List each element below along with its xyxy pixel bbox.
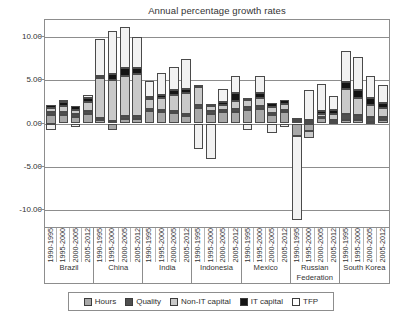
bar-segment-it-capital [71,106,81,109]
bar-segment-it-capital [267,103,277,107]
bar-segment-it-capital [292,118,302,120]
legend-label: Quality [136,297,161,306]
bar-segment-quality [108,121,118,124]
x-period-text: 2000-2005 [219,228,226,262]
bar-segment-it-capital [169,90,179,95]
bar-segment-tfp [46,124,56,130]
bar-segment-it-capital [157,95,167,98]
y-tick-label: -10.00 [2,204,42,213]
bar-segment-non-it-capital [194,87,204,105]
x-group-brazil: 1990-19951995-20002000-20052005-2012Braz… [45,228,94,284]
x-period-text: 2000-2005 [170,228,177,262]
bar-segment-hours [206,114,216,123]
x-period-label: 1995-2000 [303,228,315,262]
bar-segment-hours [231,112,241,124]
bar-segment-hours [120,119,130,124]
bar-segment-quality [194,105,204,108]
bar-segment-it-capital [194,85,204,87]
legend-swatch [240,298,248,306]
bar-segment-non-it-capital [243,100,253,107]
bar-segment-quality [231,109,241,112]
x-period-label: 1990-1995 [143,228,155,262]
x-axis: 1990-19951995-20002000-20052005-2012Braz… [44,228,390,284]
stacked-bar [169,20,179,229]
bar-segment-it-capital [317,111,327,114]
bar-segment-tfp [132,37,142,68]
bar-segment-hours [46,115,56,124]
x-period-label: 1990-1995 [340,228,352,262]
x-period-label: 1995-2000 [106,228,118,262]
stacked-bar [353,20,363,229]
x-period-label: 1990-1995 [45,228,57,262]
bar-segment-quality [329,120,339,122]
x-group-label: South Korea [340,263,389,273]
bar-segment-quality [83,111,93,114]
bar-segment-hours [341,120,351,123]
bar-segment-it-capital [181,89,191,93]
bar-segment-tfp [255,76,265,93]
bar-segment-quality [304,122,314,124]
bar-segment-quality [280,110,290,112]
bar-segment-tfp [280,124,290,128]
x-group-label: Brazil [45,263,93,273]
x-period-label: 2000-2005 [217,228,229,262]
stacked-bar [304,20,314,229]
x-period-label: 1990-1995 [242,228,254,262]
bar-segment-quality [378,117,388,121]
stacked-bar [329,20,339,229]
bar-segment-quality [132,116,142,119]
bar-segment-quality [145,109,155,111]
x-group-india: 1990-19951995-20002000-20052005-2012Indi… [143,228,192,284]
bar-segment-tfp [267,124,277,134]
bar-segment-it-capital [255,93,265,98]
bar-segment-it-capital [304,120,314,122]
bar-segment-hours [181,116,191,124]
x-group-indonesia: 1990-19951995-20002000-20052005-2012Indo… [192,228,241,284]
x-period-label: 1995-2000 [156,228,168,262]
bar-segment-hours [194,108,204,124]
bar-segment-it-capital [145,97,155,99]
bar-segment-quality [120,116,130,119]
bar-segment-quality [341,114,351,120]
x-period-label: 2000-2005 [119,228,131,262]
stacked-bar [231,20,241,229]
stacked-bar [292,20,302,229]
y-tick-label: 0.00 [2,118,42,127]
bar-segment-hours [378,120,388,123]
stacked-bar [157,20,167,229]
bar-segment-quality [255,106,265,109]
bar-segment-tfp [378,85,388,103]
x-period-text: 1995-2000 [158,228,165,262]
bar-segment-non-it-capital [317,114,327,117]
bar-segment-quality [243,107,253,110]
stacked-bar [341,20,351,229]
stacked-bar [317,20,327,229]
bar-segment-it-capital [329,110,339,113]
bar-segment-tfp [108,31,118,74]
bar-segment-it-capital [353,90,363,98]
stacked-bar [206,20,216,229]
bar-segment-quality [169,111,179,113]
bar-segment-non-it-capital [169,95,179,111]
bar-segment-non-it-capital [304,131,314,138]
bar-segment-it-capital [206,104,216,107]
bar-segment-hours [353,120,363,123]
legend-swatch [292,298,300,306]
legend-item-non-it-capital: Non-IT capital [170,297,231,306]
x-period-label: 2005-2012 [377,228,389,262]
x-period-text: 1995-2000 [59,228,66,262]
x-period-text: 2005-2012 [379,228,386,262]
x-group-mexico: 1990-19951995-20002000-20052005-2012Mexi… [242,228,291,284]
bar-segment-hours [292,124,302,136]
bar-segment-quality [59,112,69,115]
plot-area [44,19,390,228]
stacked-bar [267,20,277,229]
stacked-bar [83,20,93,229]
bar-segment-tfp [329,96,339,110]
bar-segment-it-capital [366,98,376,104]
x-period-label: 1990-1995 [291,228,303,262]
bar-segment-quality [353,115,363,121]
bar-segment-hours [145,111,155,123]
bar-segment-tfp [120,27,130,68]
legend-label: IT capital [251,297,283,306]
